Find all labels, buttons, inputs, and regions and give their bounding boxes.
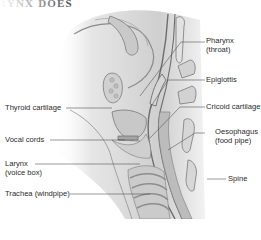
label-spine-name: Spine — [228, 175, 247, 184]
label-trachea-name: Trachea (windpipe) — [5, 190, 70, 199]
label-oesophagus-alias: (food pipe) — [215, 137, 258, 146]
label-larynx-alias: (voice box) — [5, 169, 42, 178]
label-cricoid-name: Cricoid cartilage — [206, 103, 260, 112]
label-cricoid-cartilage: Cricoid cartilage — [206, 103, 260, 112]
label-vocal-cords: Vocal cords — [5, 136, 44, 145]
label-thyroid-cartilage: Thyroid cartilage — [5, 104, 61, 113]
label-vocal-name: Vocal cords — [5, 136, 44, 145]
label-epiglottis: Epiglottis — [206, 76, 237, 85]
label-spine: Spine — [228, 175, 247, 184]
label-larynx: Larynx (voice box) — [5, 160, 42, 177]
label-pharynx: Pharynx (throat) — [206, 37, 234, 54]
label-epiglottis-name: Epiglottis — [206, 76, 237, 85]
label-thyroid-name: Thyroid cartilage — [5, 104, 61, 113]
label-oesophagus: Oesophagus (food pipe) — [215, 128, 258, 145]
label-trachea: Trachea (windpipe) — [5, 190, 70, 199]
label-pharynx-alias: (throat) — [206, 46, 234, 55]
